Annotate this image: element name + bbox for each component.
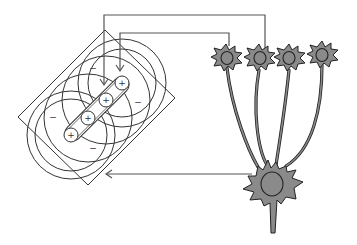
input-neuron [274, 44, 305, 71]
plus-label: + [84, 113, 92, 123]
plus-label: + [102, 95, 110, 105]
plus-label: + [118, 78, 126, 88]
minus-label: − [49, 112, 57, 122]
on-center: + [64, 128, 78, 142]
input-neuron [211, 44, 242, 71]
on-center: + [115, 76, 129, 90]
axons [227, 65, 322, 167]
minus-label: − [89, 143, 97, 153]
input-neuron [307, 41, 338, 68]
connection-wire-inner [120, 33, 229, 70]
simple-cell-receptive-field-diagram: + + + + − − − − [0, 0, 357, 245]
minus-label: − [134, 97, 142, 107]
on-center: + [81, 111, 95, 125]
input-neuron [244, 44, 275, 71]
receptive-field: + + + + − − − − [18, 30, 175, 185]
output-neuron [243, 160, 303, 233]
on-center: + [99, 93, 113, 107]
minus-label: − [89, 63, 97, 73]
plus-label: + [67, 130, 75, 140]
